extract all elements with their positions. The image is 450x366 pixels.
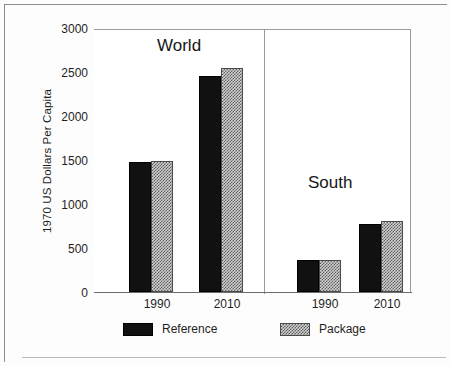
legend-item-reference[interactable]: Reference	[123, 321, 217, 337]
chart-legend: Reference Package	[94, 321, 411, 341]
bar-world-1990-package[interactable]	[151, 161, 173, 292]
y-tick-label-1000: 1000	[44, 199, 88, 211]
bar-world-2010-reference[interactable]	[199, 76, 221, 292]
bar-south-1990-package[interactable]	[319, 260, 341, 292]
scanned-page: 1970 US Dollars Per Capita 3000 2500 200…	[0, 0, 450, 366]
y-tick-label-0: 0	[44, 287, 88, 299]
x-tick-label-south-1990: 1990	[305, 297, 345, 311]
y-tick-label-2500: 2500	[44, 67, 88, 79]
bar-world-2010-package[interactable]	[221, 68, 243, 292]
bar-south-1990-reference[interactable]	[297, 260, 319, 292]
legend-item-package[interactable]: Package	[280, 321, 366, 337]
y-tick-label-3000: 3000	[44, 23, 88, 35]
bar-world-1990-reference[interactable]	[129, 162, 151, 292]
y-tick-label-2000: 2000	[44, 111, 88, 123]
bars-layer	[94, 29, 411, 292]
y-tick-label-1500: 1500	[44, 155, 88, 167]
x-axis-baseline	[94, 292, 412, 293]
x-tick-label-world-2010: 2010	[207, 297, 247, 311]
legend-label-package: Package	[319, 322, 366, 336]
legend-label-reference: Reference	[162, 322, 217, 336]
bar-south-2010-package[interactable]	[381, 221, 403, 292]
bar-south-2010-reference[interactable]	[359, 224, 381, 292]
y-tick-label-500: 500	[44, 243, 88, 255]
x-tick-label-south-2010: 2010	[367, 297, 407, 311]
bar-chart-figure: 1970 US Dollars Per Capita 3000 2500 200…	[0, 0, 450, 366]
legend-swatch-package-icon	[280, 323, 310, 336]
x-tick-label-world-1990: 1990	[137, 297, 177, 311]
legend-swatch-reference-icon	[123, 323, 153, 336]
y-axis-tick-labels: 3000 2500 2000 1500 1000 500 0	[44, 0, 88, 366]
